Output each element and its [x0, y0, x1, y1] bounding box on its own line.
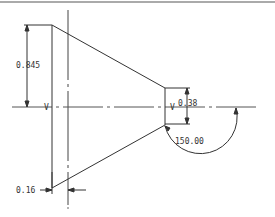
dimension-angle[interactable] — [165, 108, 238, 154]
dimension-angle-label: 150.00 — [175, 137, 204, 146]
dimension-height-small-label: 0.38 — [178, 99, 197, 108]
dimension-height-large-label: 0.845 — [16, 61, 40, 70]
datum-mark-left: V — [44, 103, 49, 112]
technical-drawing: 0.845 V 0.38 V 0.16 150.00 — [0, 0, 275, 217]
datum-mark-right: V — [170, 103, 175, 112]
dimension-offset[interactable] — [40, 172, 86, 194]
dimension-offset-label: 0.16 — [16, 186, 35, 195]
